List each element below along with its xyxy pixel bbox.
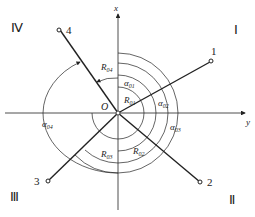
arc-r04 [97, 78, 118, 82]
origin-label: O [101, 101, 108, 112]
quadrant-3-label: Ⅲ [10, 189, 19, 204]
arm-2-end [198, 180, 202, 184]
r04-label: R04 [100, 62, 113, 73]
quadrant-4-label: Ⅳ [11, 20, 23, 35]
r03-label: R03 [100, 149, 113, 160]
arm-3-label: 3 [34, 175, 40, 187]
arm-4-label: 4 [66, 24, 72, 36]
coordinate-diagram: x y O 1 2 3 4 Ⅰ Ⅱ Ⅲ Ⅳ R01 R02 R03 R04 α0… [0, 0, 255, 217]
arm-3 [48, 113, 118, 181]
origin-point [116, 111, 120, 115]
arm-1-end [209, 59, 213, 63]
alpha02-label: α02 [158, 98, 169, 109]
arm-2-label: 2 [207, 176, 213, 188]
r02-label: R02 [132, 146, 145, 157]
alpha03-label: α03 [170, 122, 181, 133]
alpha01-label: α01 [124, 78, 135, 89]
quadrant-2-label: Ⅱ [229, 192, 235, 207]
alpha04-label: α04 [42, 119, 53, 130]
arm-4-end [57, 28, 61, 32]
y-axis-label: y [245, 117, 250, 127]
r01-label: R01 [123, 95, 136, 106]
x-axis-label: x [113, 3, 118, 13]
arm-3-end [46, 179, 50, 183]
quadrant-1-label: Ⅰ [234, 22, 238, 37]
arm-1-label: 1 [211, 45, 217, 57]
